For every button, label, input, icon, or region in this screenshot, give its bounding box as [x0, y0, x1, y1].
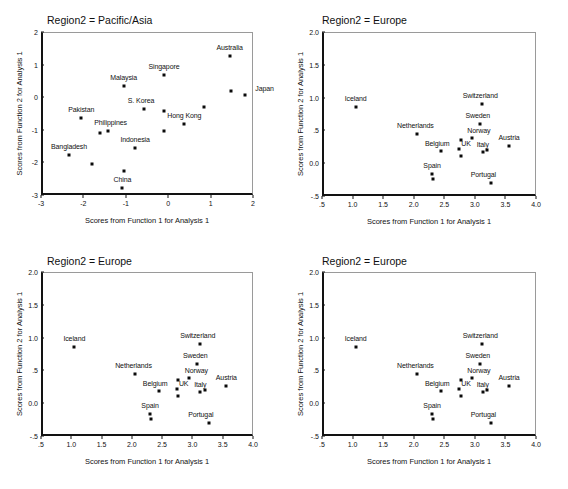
data-point-label: Portugal — [188, 410, 213, 417]
y-tick-label: -1 — [32, 126, 38, 133]
data-point-label: Portugal — [471, 410, 496, 417]
x-tick-label: -3 — [38, 200, 44, 207]
data-point — [207, 421, 210, 424]
x-tick-mark — [352, 196, 353, 199]
x-tick-mark — [168, 195, 169, 198]
panel-title: Region2 = Pacific/Asia — [47, 14, 152, 26]
y-tick-label: 1 — [34, 61, 38, 68]
panel-title: Region2 = Europe — [322, 255, 407, 267]
x-tick-mark — [222, 436, 223, 439]
x-tick-label: 3.0 — [470, 201, 480, 208]
plot-frame: -.50.0.51.01.52.0.51.01.52.02.53.03.54.0… — [41, 272, 253, 436]
x-tick-mark — [253, 436, 254, 439]
data-point-label: Switzerland — [463, 332, 498, 339]
data-point — [225, 385, 228, 388]
data-point-label: Italy — [477, 141, 489, 148]
data-point-label: Malaysia — [110, 73, 137, 80]
x-tick-mark — [253, 195, 254, 198]
data-point — [490, 181, 493, 184]
data-point-label: Iceland — [345, 94, 367, 101]
x-tick-mark — [383, 196, 384, 199]
data-point-label: Belgium — [425, 139, 450, 146]
data-point — [162, 74, 165, 77]
data-point-label: Netherlands — [115, 361, 152, 368]
data-point-label: Philippines — [94, 119, 127, 126]
x-tick-label: 2.5 — [439, 201, 449, 208]
data-point-label: Belgium — [143, 379, 168, 386]
data-point — [243, 93, 246, 96]
data-point — [490, 421, 493, 424]
plot-area — [41, 32, 253, 195]
y-tick-mark — [41, 32, 44, 33]
y-tick-mark — [41, 64, 44, 65]
data-point-label: Sweden — [183, 352, 208, 359]
data-point — [203, 389, 206, 392]
data-point-label: Indonesia — [120, 135, 149, 142]
y-tick-mark — [322, 163, 325, 164]
data-point — [228, 55, 231, 58]
x-tick-mark — [444, 196, 445, 199]
y-tick-mark — [41, 370, 44, 371]
y-tick-label: 1.5 — [309, 61, 319, 68]
data-point-label: Netherlands — [397, 121, 434, 128]
y-tick-mark — [41, 129, 44, 130]
x-tick-label: 4.0 — [531, 441, 541, 448]
y-axis-label: Scores from Function 2 for Analysis 1 — [296, 32, 305, 196]
data-point-label: Portugal — [471, 170, 496, 177]
y-tick-mark — [41, 162, 44, 163]
data-point — [432, 177, 435, 180]
data-point — [481, 391, 484, 394]
data-point-label: Singapore — [148, 63, 179, 70]
data-point-label: Norway — [185, 366, 208, 373]
data-point-label: China — [114, 175, 132, 182]
data-point-label: UK — [461, 140, 471, 147]
y-tick-label: 2.0 — [309, 269, 319, 276]
x-tick-mark — [41, 195, 42, 198]
data-point-label: Bangladesh — [51, 142, 87, 149]
data-point-label: Pakistan — [68, 106, 94, 113]
data-point-label: Netherlands — [397, 361, 434, 368]
y-axis-label: Scores from Function 2 for Analysis 1 — [15, 32, 24, 195]
data-point-label: Switzerland — [180, 332, 215, 339]
data-point-label: UK — [461, 380, 471, 387]
data-point — [134, 372, 137, 375]
y-tick-label: 1.0 — [309, 334, 319, 341]
scatter-panel: Region2 = Pacific/Asia-3-2-1012-3-2-1012… — [0, 0, 284, 244]
x-tick-label: 4.0 — [531, 201, 541, 208]
y-tick-label: 0.0 — [28, 400, 38, 407]
data-point — [158, 389, 161, 392]
data-point — [481, 151, 484, 154]
x-tick-mark — [41, 436, 42, 439]
x-tick-mark — [131, 436, 132, 439]
y-tick-label: 0 — [34, 94, 38, 101]
x-tick-label: 3.5 — [218, 441, 228, 448]
data-point — [354, 345, 357, 348]
data-point-label: Austria — [499, 134, 520, 141]
x-tick-label: 1.5 — [378, 441, 388, 448]
data-point — [98, 132, 101, 135]
data-point — [440, 149, 443, 152]
data-point — [459, 154, 462, 157]
x-tick-label: -1 — [123, 200, 129, 207]
x-tick-label: 3.0 — [470, 441, 480, 448]
x-tick-mark — [71, 436, 72, 439]
data-point-label: Iceland — [63, 334, 85, 341]
y-tick-label: 0.0 — [309, 400, 319, 407]
x-tick-label: 3.0 — [188, 441, 198, 448]
data-point — [457, 148, 460, 151]
data-point-label: Spain — [141, 402, 158, 409]
data-point — [431, 413, 434, 416]
data-point — [188, 376, 191, 379]
data-point — [459, 394, 462, 397]
x-tick-mark — [322, 436, 323, 439]
data-point — [432, 417, 435, 420]
x-tick-mark — [413, 436, 414, 439]
y-tick-mark — [41, 337, 44, 338]
x-tick-mark — [444, 436, 445, 439]
data-point-label: UK — [179, 380, 189, 387]
y-tick-mark — [41, 403, 44, 404]
y-tick-label: -.5 — [30, 433, 38, 440]
x-tick-mark — [505, 436, 506, 439]
scatter-panel: Region2 = Europe-.50.0.51.01.52.0.51.01.… — [0, 245, 284, 489]
x-tick-mark — [536, 196, 537, 199]
